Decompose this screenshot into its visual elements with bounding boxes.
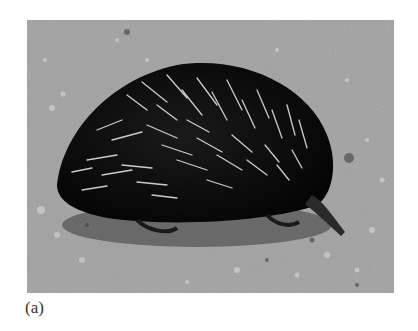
echidna-photo bbox=[27, 20, 394, 293]
figure-caption: (a) bbox=[25, 298, 44, 318]
echidna-photo-image bbox=[27, 20, 394, 293]
